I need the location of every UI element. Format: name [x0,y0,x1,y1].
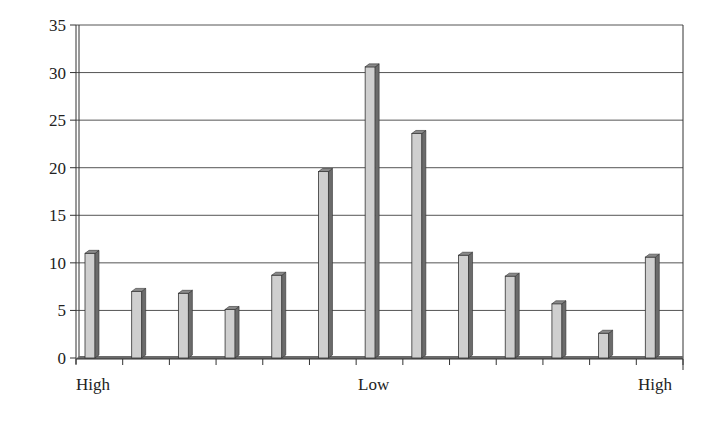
y-tick-label: 15 [49,206,66,225]
bars [76,64,683,359]
y-tick-label: 35 [49,16,66,35]
x-axis [76,359,683,365]
y-tick-label: 10 [49,254,66,273]
bar [178,290,192,358]
x-label-center-low: Low [358,375,390,394]
bar [645,254,659,358]
bar [505,273,519,358]
y-tick-label: 0 [58,349,67,368]
y-tick-label: 5 [58,301,67,320]
bar [459,252,473,358]
bar [272,272,286,358]
bar [225,306,239,358]
bar [599,330,613,358]
y-tick-label: 20 [49,159,66,178]
bar [552,301,566,358]
bar [365,64,379,358]
y-axis: 05101520253035 [49,16,79,368]
bar [85,250,99,358]
y-tick-label: 25 [49,111,66,130]
bar [318,169,332,358]
x-label-left-high: High [76,375,111,394]
y-tick-label: 30 [49,64,66,83]
bar [412,130,426,358]
x-label-right-high: High [638,375,673,394]
gridlines [76,25,683,370]
bar [132,288,146,358]
bar-chart: 05101520253035 High Low High [0,0,718,421]
